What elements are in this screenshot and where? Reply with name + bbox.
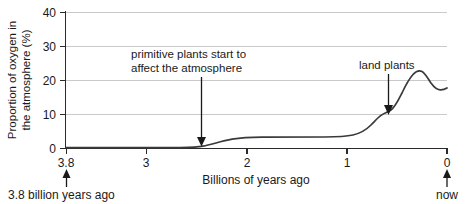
y-axis-ticks (60, 13, 65, 149)
annotation-primitive-plants-line1: primitive plants start to (131, 48, 246, 60)
x-tick-label-3_8: 3.8 (58, 156, 75, 170)
x-axis-ticks (67, 149, 448, 155)
right-footnote-arrow-head (443, 169, 451, 178)
y-tick-label-40: 40 (43, 6, 57, 20)
x-tick-label-0: 0 (444, 156, 451, 170)
footnote-left: 3.8 billion years ago (8, 169, 115, 202)
y-axis-title: Proportion of oxygen in the atmosphere (… (6, 21, 32, 139)
y-axis-title-line1: Proportion of oxygen in (6, 21, 18, 139)
y-tick-label-20: 20 (43, 74, 57, 88)
right-footnote-label: now (436, 188, 458, 202)
y-tick-label-0: 0 (49, 142, 56, 156)
footnote-right: now (436, 169, 458, 202)
x-tick-label-3: 3 (143, 156, 150, 170)
x-axis-tick-labels: 3.8 3 2 1 0 (58, 156, 451, 170)
x-tick-label-2: 2 (244, 156, 251, 170)
oxygen-timeline-chart: 40 30 20 10 0 Proportion of oxygen in th… (0, 0, 469, 204)
annotation-primitive-plants-line2: affect the atmosphere (131, 62, 242, 74)
annotation-land-plants-line1: land plants (359, 59, 415, 71)
x-axis-title: Billions of years ago (202, 173, 310, 187)
x-tick-label-1: 1 (344, 156, 351, 170)
y-tick-label-10: 10 (43, 108, 57, 122)
y-tick-label-30: 30 (43, 40, 57, 54)
y-axis-title-line2: the atmosphere (%) (20, 29, 32, 130)
left-footnote-label: 3.8 billion years ago (8, 188, 115, 202)
left-footnote-arrow-head (63, 169, 71, 178)
y-axis-tick-labels: 40 30 20 10 0 (43, 6, 57, 156)
